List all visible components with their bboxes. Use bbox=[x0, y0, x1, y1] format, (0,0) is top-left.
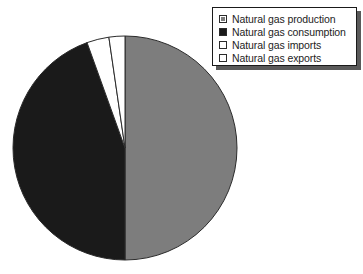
legend-swatch-icon-exports bbox=[219, 54, 227, 62]
legend-item-production[interactable]: Natural gas production bbox=[219, 12, 351, 25]
legend-label-exports: Natural gas exports bbox=[232, 52, 321, 64]
legend-item-consumption[interactable]: Natural gas consumption bbox=[219, 25, 351, 38]
legend-swatch-icon-imports bbox=[219, 41, 227, 49]
pie-slice-group bbox=[13, 36, 237, 260]
chart-legend: Natural gas production Natural gas consu… bbox=[212, 7, 357, 66]
legend-label-production: Natural gas production bbox=[232, 13, 335, 25]
legend-label-imports: Natural gas imports bbox=[232, 39, 321, 51]
pie-chart-figure: Natural gas production Natural gas consu… bbox=[0, 0, 363, 274]
legend-item-imports[interactable]: Natural gas imports bbox=[219, 38, 351, 51]
legend-label-consumption: Natural gas consumption bbox=[232, 26, 346, 38]
legend-swatch-icon-consumption bbox=[219, 28, 227, 36]
legend-item-exports[interactable]: Natural gas exports bbox=[219, 51, 351, 64]
legend-swatch-icon-production bbox=[219, 15, 227, 23]
